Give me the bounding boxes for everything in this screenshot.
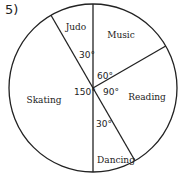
slice-label-skating: Skating <box>26 95 61 105</box>
slice-label-reading: Reading <box>128 92 166 102</box>
angle-label-judo: 30° <box>79 50 95 60</box>
angle-label-reading: 90° <box>103 87 119 97</box>
angle-label-skating: 150° <box>74 87 96 97</box>
slice-label-music: Music <box>107 30 135 40</box>
angle-label-dancing: 30° <box>96 119 112 129</box>
slice-label-dancing: Dancing <box>97 155 135 165</box>
slice-label-judo: Judo <box>65 22 87 32</box>
angle-label-music: 60° <box>97 71 113 81</box>
pie-chart: Music60°Reading90°Dancing30°Skating150°J… <box>0 0 180 174</box>
